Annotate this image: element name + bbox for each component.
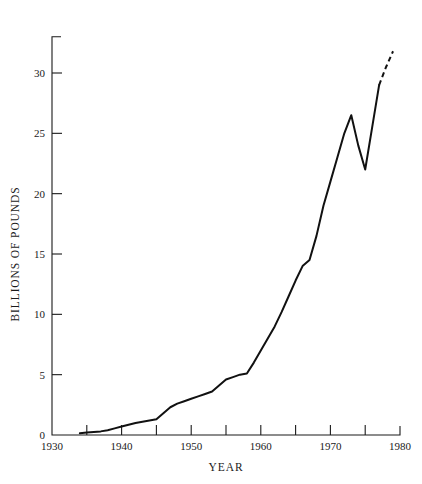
- y-tick-label: 15: [34, 248, 46, 260]
- y-tick-label: 20: [34, 188, 46, 200]
- x-tick-label: 1980: [389, 440, 412, 452]
- line-chart-svg: 051015202530 193019401950196019701980 YE…: [0, 0, 422, 484]
- x-axis-title: YEAR: [209, 461, 244, 473]
- x-tick-label: 1940: [111, 440, 134, 452]
- chart-figure: 051015202530 193019401950196019701980 YE…: [0, 0, 422, 484]
- y-tick-label: 5: [40, 369, 46, 381]
- y-tick-label: 10: [34, 308, 46, 320]
- y-axis-tick-labels: 051015202530: [34, 67, 46, 441]
- series-line-observed: [80, 85, 379, 433]
- axis-spine: [52, 37, 400, 435]
- x-tick-label: 1960: [250, 440, 273, 452]
- x-axis-tick-labels: 193019401950196019701980: [41, 440, 412, 452]
- y-tick-label: 25: [34, 127, 46, 139]
- chart-axes: 051015202530 193019401950196019701980: [34, 37, 412, 452]
- chart-series-group: [80, 51, 393, 433]
- x-axis-tick-marks: [87, 425, 365, 435]
- y-tick-label: 30: [34, 67, 46, 79]
- x-tick-label: 1970: [319, 440, 342, 452]
- x-tick-label: 1950: [180, 440, 203, 452]
- y-axis-title: BILLIONS OF POUNDS: [9, 186, 21, 321]
- series-line-projected: [379, 51, 393, 85]
- x-tick-label: 1930: [41, 440, 64, 452]
- y-axis-tick-marks: [52, 73, 62, 375]
